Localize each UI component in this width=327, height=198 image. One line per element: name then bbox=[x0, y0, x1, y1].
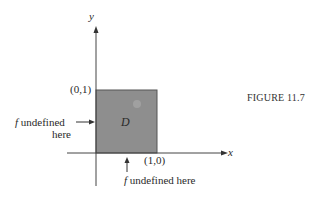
bottom-arrow-head-icon bbox=[125, 157, 130, 163]
y-axis-label: y bbox=[89, 11, 94, 22]
left-annotation: f undefined bbox=[15, 117, 65, 128]
bottom-annotation-text: undefined here bbox=[127, 174, 195, 186]
y-axis-arrow-icon bbox=[94, 26, 99, 33]
left-arrow-head-icon bbox=[89, 120, 95, 125]
left-annotation-line1: undefined bbox=[18, 116, 65, 128]
x-axis-label: x bbox=[228, 147, 233, 158]
bottom-annotation: f undefined here bbox=[124, 175, 195, 186]
figure-caption: FIGURE 11.7 bbox=[247, 92, 305, 103]
x-axis-arrow-icon bbox=[221, 151, 228, 156]
point-label-0-1: (0,1) bbox=[70, 84, 91, 95]
region-highlight bbox=[133, 100, 141, 108]
region-label: D bbox=[121, 117, 130, 128]
left-annotation-line2: here bbox=[52, 129, 71, 140]
point-label-1-0: (1,0) bbox=[144, 155, 165, 166]
